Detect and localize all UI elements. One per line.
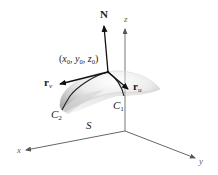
ru-label: ru bbox=[133, 81, 141, 92]
surface-label: S bbox=[86, 120, 92, 131]
rv-label: rv bbox=[44, 77, 52, 88]
diagram-canvas bbox=[0, 0, 218, 175]
normal-label: N bbox=[100, 9, 108, 20]
c1-label: C1 bbox=[113, 100, 124, 111]
y-axis-label: y bbox=[199, 157, 203, 166]
y-axis bbox=[125, 131, 195, 158]
surface-normal-diagram: N z (x0, y0, z0) rv ru C1 C2 S x y bbox=[0, 0, 218, 175]
point-x0-y0-z0 bbox=[107, 71, 109, 73]
c1-label-sub: 1 bbox=[120, 105, 124, 113]
x-axis-label: x bbox=[17, 146, 21, 155]
normal-vector-n bbox=[104, 26, 108, 72]
z-axis-label: z bbox=[124, 15, 128, 24]
c2-label-sub: 2 bbox=[58, 114, 62, 122]
point-label-close: ) bbox=[95, 53, 98, 64]
c2-label: C2 bbox=[51, 109, 62, 120]
point-label: (x0, y0, z0) bbox=[59, 54, 98, 64]
rv-label-sub: v bbox=[49, 82, 52, 90]
x-axis bbox=[26, 131, 125, 150]
surface-s bbox=[60, 71, 160, 114]
ru-label-sub: u bbox=[138, 86, 142, 94]
